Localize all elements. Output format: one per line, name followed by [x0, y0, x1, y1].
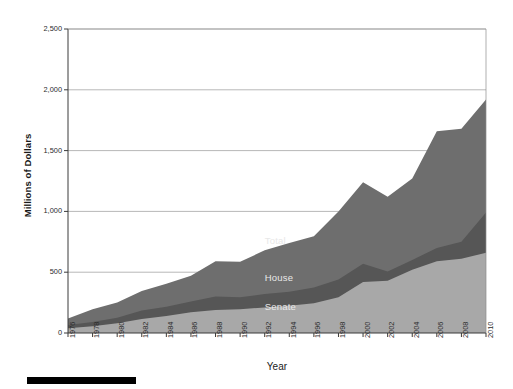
series-label-house: House [265, 272, 293, 283]
y-tick: 2,500 [22, 29, 62, 30]
x-tick-label: 1988 [216, 322, 223, 338]
x-tick-label: 1994 [290, 322, 297, 338]
y-tick-label: 2,000 [26, 86, 62, 93]
y-tick-label: 500 [26, 268, 62, 275]
y-tick: 2,000 [22, 90, 62, 91]
y-tick: 0 [22, 333, 62, 334]
x-tick-label: 2004 [413, 322, 420, 338]
y-tick-label: 2,500 [26, 25, 62, 32]
series-label-total: Total [265, 235, 286, 246]
x-tick-label: 1976 [69, 322, 76, 338]
x-tick-label: 2010 [487, 322, 494, 338]
x-tick-label: 1982 [142, 322, 149, 338]
y-tick: 500 [22, 272, 62, 273]
campaign-spending-area-chart: 05001,0001,5002,0002,500 197619781980198… [0, 0, 513, 389]
x-tick-label: 1996 [314, 322, 321, 338]
x-tick-label: 1978 [93, 322, 100, 338]
x-tick-label: 2000 [364, 322, 371, 338]
series-areas [68, 100, 486, 333]
x-tick-label: 2008 [462, 322, 469, 338]
x-tick-label: 1984 [167, 322, 174, 338]
series-label-senate: Senate [265, 301, 296, 312]
x-tick-label: 1980 [118, 322, 125, 338]
x-tick-label: 1990 [241, 322, 248, 338]
x-tick-label: 1998 [339, 322, 346, 338]
x-tick-label: 2006 [437, 322, 444, 338]
x-tick: 2010 [486, 338, 487, 368]
x-tick-label: 1992 [265, 322, 272, 338]
x-axis-title: Year [68, 361, 486, 372]
x-tick-label: 2002 [388, 322, 395, 338]
y-tick-label: 0 [26, 329, 62, 336]
footer-rule-bar [27, 377, 136, 384]
x-tick-label: 1986 [191, 322, 198, 338]
y-axis-title: Millions of Dollars [22, 101, 33, 251]
